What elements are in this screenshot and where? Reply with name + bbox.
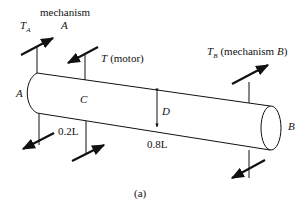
length-ac-label: 0.2L [58, 125, 79, 137]
point-c-label: C [80, 93, 88, 105]
torque-b-arrow [232, 65, 268, 103]
mechanism-a-word: mechanism [40, 6, 91, 18]
shaft-top-edge [37, 73, 270, 106]
end-a-label: A [15, 87, 23, 99]
torque-b-label: TB(mechanism B) [207, 45, 288, 60]
torque-a-label: TA [20, 19, 31, 34]
torque-a-arrow [21, 38, 53, 73]
mechanism-a-letter: A [60, 19, 68, 31]
shaft-end-a [27, 73, 37, 113]
torque-motor-arrow [68, 47, 98, 80]
shaft-diagram: mechanism A TA T(motor) TB(mechanism B) … [0, 0, 307, 210]
bottom-arrow-a [23, 114, 54, 149]
torque-motor-label: T(motor) [101, 52, 144, 65]
end-b-label: B [288, 120, 295, 132]
bottom-arrow-b [232, 150, 265, 178]
diameter-label: D [161, 105, 170, 117]
shaft-end-b [261, 106, 281, 150]
figure-caption: (a) [134, 187, 147, 200]
length-cb-label: 0.8L [147, 138, 168, 150]
